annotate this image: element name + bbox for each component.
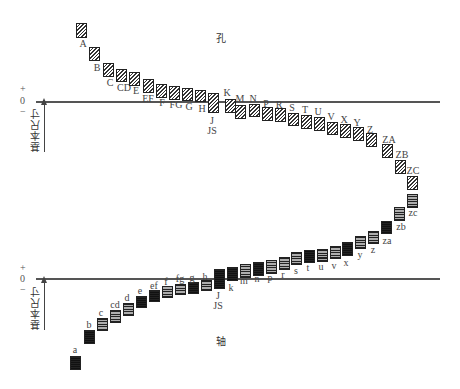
shaft-zone-box — [84, 330, 95, 344]
hole-minus-sign: − — [20, 107, 26, 117]
shaft-zone-label: b — [87, 320, 92, 330]
shaft-zone-label: zc — [409, 208, 418, 218]
shaft-zone-label: c — [99, 308, 103, 318]
hole-zone-box — [301, 115, 312, 129]
hole-zone-box — [182, 88, 193, 101]
hole-title: 孔 — [216, 30, 226, 45]
hole-zone-label: X — [340, 115, 347, 125]
shaft-plus-sign: + — [20, 263, 26, 273]
shaft-zone-box — [110, 310, 121, 323]
shaft-minus-sign: − — [20, 285, 26, 295]
shaft-zone-label: m — [240, 276, 248, 286]
shaft-zone-label: x — [344, 258, 349, 268]
hole-zone-label: M — [236, 94, 245, 104]
hole-zone-box — [195, 90, 206, 102]
shaft-zero-line — [36, 278, 440, 280]
shaft-zone-label: a — [73, 345, 77, 355]
hole-zone-box — [340, 124, 351, 138]
shaft-zone-box — [291, 252, 302, 265]
hole-zone-label: P — [263, 99, 269, 109]
shaft-zone-box — [188, 282, 199, 294]
hole-zone-label: ZC — [407, 166, 420, 176]
shaft-zone-box — [70, 356, 81, 370]
hole-zone-label: Z — [367, 125, 373, 135]
shaft-zone-box — [330, 246, 341, 259]
hole-zone-label: B — [94, 63, 101, 73]
hole-zone-box — [407, 176, 418, 190]
hole-zone-box — [169, 86, 180, 100]
hole-zone-label: H — [198, 104, 205, 114]
shaft-zone-label: za — [383, 236, 392, 246]
hole-zone-box — [382, 144, 393, 158]
shaft-zone-label: s — [294, 266, 298, 276]
hole-zone-box — [89, 47, 100, 61]
shaft-zone-label: d — [125, 293, 130, 303]
shaft-zone-label: p — [268, 273, 273, 283]
shaft-zero-sign: 0 — [20, 274, 25, 284]
hole-zone-label: N — [249, 94, 256, 104]
shaft-zone-box — [136, 296, 147, 308]
hole-zone-box — [116, 69, 127, 82]
shaft-zone-box — [407, 194, 418, 208]
hole-zone-label: JJS — [207, 116, 216, 136]
shaft-zone-label: z — [371, 245, 375, 255]
shaft-zone-box — [381, 221, 392, 234]
fundamental-deviation-diagram: 孔 + 0 − 基本尺寸 ABCCDEEFFFGGHJJSKMNPRSTUVXY… — [0, 0, 460, 389]
hole-zone-label: U — [314, 107, 321, 117]
hole-zone-label: F — [159, 98, 165, 108]
shaft-zone-box — [162, 286, 173, 298]
hole-zone-box — [395, 160, 406, 174]
hole-zone-label: K — [223, 88, 230, 98]
shaft-zone-box — [342, 242, 353, 256]
shaft-basic-size-label: 基本尺寸 — [28, 286, 43, 330]
shaft-zone-label: g — [190, 273, 195, 283]
shaft-zone-label: n — [255, 274, 260, 284]
hole-zone-label: V — [327, 112, 334, 122]
hole-zone-box — [156, 84, 167, 98]
hole-zone-label: S — [289, 103, 295, 113]
hole-zone-label: G — [185, 102, 192, 112]
shaft-zone-label: t — [307, 263, 310, 273]
hole-zone-label: R — [276, 100, 283, 110]
hole-zone-box — [275, 108, 286, 122]
hole-zone-box — [76, 23, 87, 38]
shaft-zone-box — [214, 269, 225, 289]
hole-zone-box — [288, 113, 299, 126]
shaft-zone-label: k — [229, 283, 234, 293]
shaft-zone-label: e — [138, 286, 142, 296]
shaft-zone-label: JJS — [213, 291, 222, 311]
hole-zone-box — [103, 63, 114, 77]
hole-zone-label: FG — [170, 100, 183, 110]
hole-zone-label: A — [79, 39, 86, 49]
shaft-zone-label: r — [281, 270, 284, 280]
hole-zone-label: ZB — [396, 150, 409, 160]
shaft-zone-box — [175, 284, 186, 295]
hole-zero-sign: 0 — [20, 96, 25, 106]
hole-zone-box — [353, 127, 364, 141]
hole-zone-label: ZA — [382, 135, 395, 145]
shaft-zone-label: zb — [396, 222, 405, 232]
hole-zone-box — [314, 117, 325, 131]
hole-zone-box — [143, 79, 154, 93]
hole-zone-label: T — [302, 105, 308, 115]
hole-zone-label: Y — [353, 118, 360, 128]
hole-zone-label: EF — [142, 94, 154, 104]
shaft-zone-label: cd — [110, 300, 119, 310]
shaft-zone-box — [123, 303, 134, 316]
hole-zone-label: E — [133, 86, 139, 96]
hole-zone-box — [208, 93, 219, 113]
shaft-zone-box — [149, 290, 160, 302]
shaft-zone-box — [355, 236, 366, 249]
hole-zone-box — [262, 107, 273, 121]
shaft-zone-box — [368, 231, 379, 244]
hole-zone-box — [129, 72, 140, 86]
shaft-zone-box — [97, 318, 108, 331]
shaft-title: 轴 — [216, 333, 226, 348]
shaft-zone-label: h — [203, 272, 208, 282]
hole-plus-sign: + — [20, 84, 26, 94]
hole-zone-box — [235, 105, 246, 119]
shaft-zone-label: v — [332, 261, 337, 271]
shaft-zone-label: fg — [176, 274, 184, 284]
shaft-zone-label: y — [358, 250, 363, 260]
hole-zone-box — [249, 104, 260, 117]
